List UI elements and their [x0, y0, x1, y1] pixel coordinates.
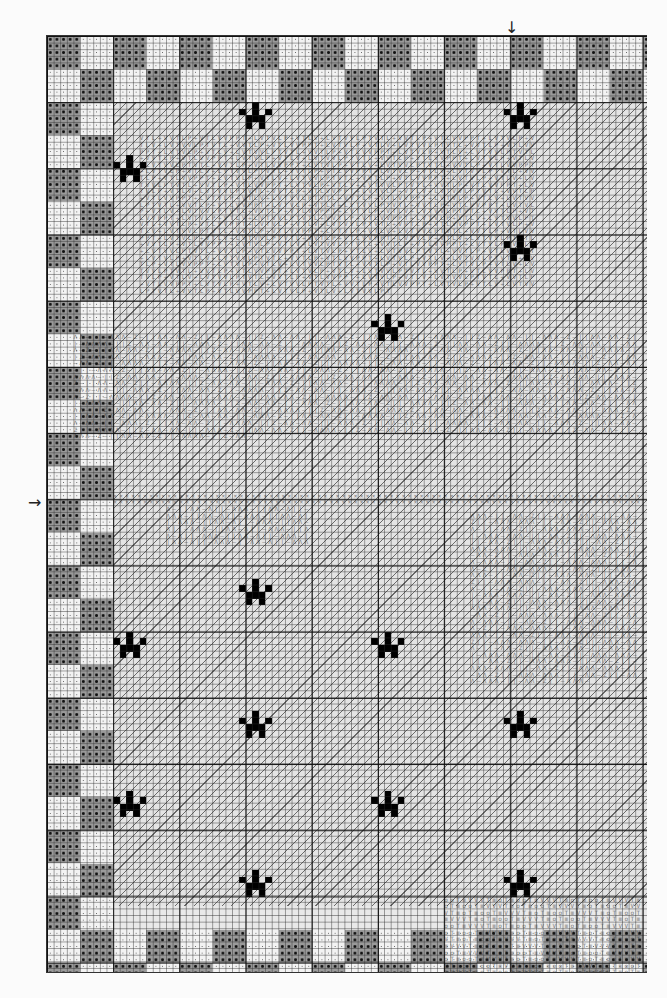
- border-block: [80, 797, 113, 830]
- border-block: [47, 963, 80, 973]
- cat-head-zone: VTL÷VVTLP÷VTLVVPPT÷LVTVLP÷VTLV÷LVTVVLPTV…: [140, 135, 537, 367]
- cat-paw-right-zone: ΛΛΛ–||–ΛΛ–Z||–ΛΛΛ–ΛΛΛ–||–ΛΛ–Z||–ΛΛΛ–ΛΛΛ–…: [471, 513, 643, 685]
- border-block: [444, 36, 477, 69]
- border-block: [113, 963, 146, 973]
- border-block: [312, 69, 345, 102]
- border-block: [47, 36, 80, 69]
- border-block: [610, 36, 643, 69]
- border-block: [80, 665, 113, 698]
- border-block: [179, 36, 212, 69]
- bottom-details-zone: ooT≡VVVT≡oT≡ooT≡VVVT≡oT≡ooT≡VVVT≡oT≡ooT≡…: [444, 897, 643, 973]
- border-block: [246, 36, 279, 69]
- border-block: [47, 599, 80, 632]
- border-block: [47, 69, 80, 102]
- border-block: [80, 168, 113, 201]
- border-block: [643, 930, 647, 963]
- border-block: [345, 963, 378, 973]
- border-block: [80, 235, 113, 268]
- border-block: [80, 632, 113, 665]
- border-block: [80, 301, 113, 334]
- border-block: [146, 36, 179, 69]
- border-block: [345, 930, 378, 963]
- border-block: [544, 36, 577, 69]
- border-block: [411, 963, 444, 973]
- border-block: [378, 69, 411, 102]
- border-block: [213, 69, 246, 102]
- border-block: [146, 69, 179, 102]
- border-block: [80, 731, 113, 764]
- border-block: [113, 36, 146, 69]
- border-block: [80, 36, 113, 69]
- border-block: [47, 698, 80, 731]
- border-block: [179, 963, 212, 973]
- border-block: [47, 665, 80, 698]
- border-block: [113, 930, 146, 963]
- border-block: [146, 930, 179, 963]
- cat-fur-zone: ΛΛ–||–ΛΛΛ–Z–||ΛΛ–ΛΛ–Z||–ΛΛΛΛ–||Z–ΛΛ–ΛΛ–|…: [73, 334, 642, 506]
- border-block: [47, 566, 80, 599]
- border-block: [378, 36, 411, 69]
- border-block: [80, 69, 113, 102]
- border-block: [80, 930, 113, 963]
- border-block: [47, 930, 80, 963]
- border-block: [577, 69, 610, 102]
- border-block: [213, 36, 246, 69]
- border-block: [345, 69, 378, 102]
- border-block: [80, 599, 113, 632]
- border-block: [510, 69, 543, 102]
- border-block: [80, 897, 113, 930]
- border-block: [643, 69, 647, 102]
- whisker-row-zone: ××××××××××××××××××××××××××××××××××××××××…: [113, 493, 643, 506]
- border-block: [213, 930, 246, 963]
- border-block: [544, 69, 577, 102]
- border-block: [47, 830, 80, 863]
- border-block: [47, 731, 80, 764]
- border-block: [47, 301, 80, 334]
- border-block: [279, 69, 312, 102]
- border-block: [643, 963, 647, 973]
- border-block: [345, 36, 378, 69]
- border-block: [411, 69, 444, 102]
- border-block: [80, 566, 113, 599]
- border-block: [411, 930, 444, 963]
- border-block: [47, 235, 80, 268]
- border-block: [444, 69, 477, 102]
- border-block: [246, 930, 279, 963]
- border-block: [80, 698, 113, 731]
- cross-stitch-chart: VTL÷VVTLP÷VTLVVPPT÷LVTVLP÷VTLV÷LVTVVLPTV…: [46, 35, 647, 973]
- border-block: [47, 533, 80, 566]
- border-block: [47, 897, 80, 930]
- border-block: [80, 533, 113, 566]
- border-block: [378, 930, 411, 963]
- border-block: [113, 69, 146, 102]
- border-block: [510, 36, 543, 69]
- border-block: [47, 135, 80, 168]
- border-block: [213, 963, 246, 973]
- border-block: [47, 764, 80, 797]
- cat-chin-zone: Λ–||ΛΛ–Λ||–ΛΛΛ–||ΛΛ–Λ||–ΛΛΛ–||ΛΛ–Λ||–ΛΛΛ…: [166, 506, 312, 546]
- border-block: [610, 69, 643, 102]
- border-block: [246, 69, 279, 102]
- border-block: [279, 36, 312, 69]
- border-block: [47, 632, 80, 665]
- border-block: [312, 963, 345, 973]
- center-arrow-left-icon: →: [28, 495, 41, 511]
- border-block: [80, 268, 113, 301]
- border-block: [80, 963, 113, 973]
- border-block: [47, 102, 80, 135]
- border-block: [47, 168, 80, 201]
- border-block: [378, 963, 411, 973]
- border-block: [312, 36, 345, 69]
- border-block: [246, 963, 279, 973]
- border-block: [47, 864, 80, 897]
- border-block: [279, 963, 312, 973]
- border-block: [312, 930, 345, 963]
- border-block: [477, 69, 510, 102]
- border-block: [80, 102, 113, 135]
- border-block: [179, 930, 212, 963]
- border-block: [477, 36, 510, 69]
- border-block: [47, 202, 80, 235]
- border-block: [80, 135, 113, 168]
- border-block: [643, 36, 647, 69]
- border-block: [47, 268, 80, 301]
